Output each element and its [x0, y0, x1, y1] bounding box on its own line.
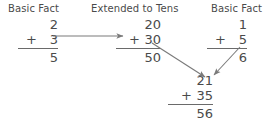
problem-extended-to-tens: 20 + 30 50	[116, 17, 161, 65]
sum: 6	[227, 50, 247, 65]
problem-basic-fact-ones-right: 1 + 5 6	[207, 17, 247, 65]
problem-sum-row: 50	[116, 49, 161, 65]
problem-sum-row: 56	[168, 105, 213, 121]
plus-operator: +	[26, 32, 38, 47]
top-addend: 2	[38, 17, 58, 32]
math-diagram: Basic Fact Extended to Tens Basic Fact 2…	[0, 0, 280, 121]
problem-sum-row: 6	[207, 49, 247, 65]
problem-top-addend-row: 2	[18, 17, 58, 32]
bottom-addend: 5	[227, 32, 247, 47]
problem-bottom-addend-row: + 3	[18, 32, 58, 49]
problem-bottom-addend-row: + 30	[116, 32, 161, 49]
problem-bottom-addend-row: + 5	[207, 32, 247, 49]
problem-basic-fact-ones: 2 + 3 5	[18, 17, 58, 65]
heading-basic-fact-right: Basic Fact	[211, 3, 262, 15]
bottom-addend: 30	[141, 32, 161, 47]
top-addend: 20	[141, 17, 161, 32]
plus-operator: +	[181, 88, 193, 103]
plus-operator: +	[129, 32, 141, 47]
problem-top-addend-row: 21	[168, 73, 213, 88]
sum: 50	[141, 50, 161, 65]
bottom-addend: 35	[193, 88, 213, 103]
top-addend: 1	[227, 17, 247, 32]
heading-basic-fact-left: Basic Fact	[8, 3, 59, 15]
problem-top-addend-row: 20	[116, 17, 161, 32]
plus-operator: +	[215, 32, 227, 47]
sum: 5	[38, 50, 58, 65]
sum: 56	[193, 106, 213, 121]
problem-sum-row: 5	[18, 49, 58, 65]
problem-bottom-addend-row: + 35	[168, 88, 213, 105]
problem-top-addend-row: 1	[207, 17, 247, 32]
bottom-addend: 3	[38, 32, 58, 47]
heading-extended-to-tens: Extended to Tens	[91, 3, 179, 15]
problem-combined-result: 21 + 35 56	[168, 73, 213, 121]
top-addend: 21	[193, 73, 213, 88]
